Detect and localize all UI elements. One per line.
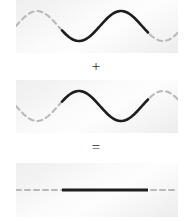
wave-1-solid-path — [62, 11, 148, 41]
wave-2-plot — [16, 80, 178, 133]
plus-operator: + — [0, 59, 192, 74]
equals-operator: = — [0, 140, 192, 155]
wave-sum-plot — [16, 163, 178, 217]
wave-superposition-figure: + = — [0, 0, 192, 221]
wave-1-plot — [16, 0, 178, 53]
wave-2-dashed-path — [16, 91, 178, 121]
wave-panel-sum — [16, 163, 178, 217]
wave-panel-1 — [16, 0, 178, 53]
wave-2-solid-path — [62, 91, 148, 121]
wave-panel-2 — [16, 80, 178, 133]
wave-1-dashed-path — [16, 11, 178, 41]
